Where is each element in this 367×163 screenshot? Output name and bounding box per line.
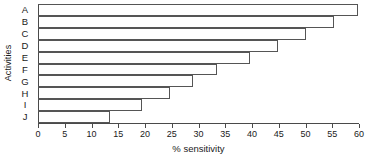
y-axis-tick-label: C — [16, 28, 34, 40]
y-axis-tick-label: B — [16, 16, 34, 28]
y-axis-title-text: Activities — [3, 44, 13, 81]
x-axis-tick-label: 5 — [62, 128, 67, 141]
x-axis-tick-label: 15 — [113, 128, 123, 141]
bar-b — [38, 16, 334, 28]
y-axis-tick-label: I — [16, 99, 34, 111]
x-axis-tick-label: 20 — [140, 128, 150, 141]
bar-row — [38, 64, 358, 76]
bar-d — [38, 40, 278, 52]
x-axis-tick-label: 60 — [354, 128, 364, 141]
bar-h — [38, 87, 170, 99]
x-axis-tick-label: 10 — [86, 128, 96, 141]
bar-c — [38, 28, 306, 40]
bar-row — [38, 40, 358, 52]
bar-g — [38, 75, 193, 87]
x-axis-tick-label: 30 — [193, 128, 203, 141]
y-axis-tick-label: E — [16, 52, 34, 64]
y-axis-tick-labels: ABCDEFGHIJ — [16, 4, 34, 123]
y-axis-tick-label: A — [16, 4, 34, 16]
bar-row — [38, 111, 358, 123]
bar-e — [38, 52, 250, 64]
x-axis-tick-label: 35 — [220, 128, 230, 141]
y-axis-tick-label: F — [16, 64, 34, 76]
bar-row — [38, 52, 358, 64]
bar-a — [38, 4, 358, 16]
y-axis-tick-label: D — [16, 40, 34, 52]
x-axis-tick-label: 0 — [35, 128, 40, 141]
x-axis-title: % sensitivity — [38, 143, 359, 154]
y-axis-tick-label: G — [16, 75, 34, 87]
bar-row — [38, 28, 358, 40]
bar-row — [38, 99, 358, 111]
bar-row — [38, 4, 358, 16]
bar-j — [38, 111, 110, 123]
x-axis-tick-label: 40 — [247, 128, 257, 141]
bar-row — [38, 16, 358, 28]
bar-f — [38, 64, 217, 76]
plot-area — [38, 4, 358, 123]
x-axis-tick-label: 45 — [274, 128, 284, 141]
bar-i — [38, 99, 142, 111]
bar-series — [38, 4, 358, 123]
x-axis-tick-label: 55 — [327, 128, 337, 141]
bar-row — [38, 87, 358, 99]
x-axis-tick-labels: 051015202530354045505560 — [38, 128, 359, 141]
y-axis-title: Activities — [0, 0, 16, 125]
x-axis-tick-label: 50 — [300, 128, 310, 141]
y-axis-tick-label: H — [16, 87, 34, 99]
x-axis-tick-label: 25 — [167, 128, 177, 141]
sensitivity-bar-chart: Activities ABCDEFGHIJ 051015202530354045… — [0, 0, 367, 163]
y-axis-tick-label: J — [16, 111, 34, 123]
bar-row — [38, 75, 358, 87]
